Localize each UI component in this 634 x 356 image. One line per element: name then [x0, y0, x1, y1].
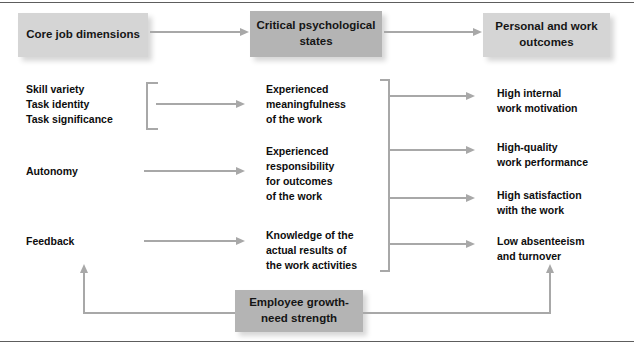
states-fan-spine: [388, 79, 390, 270]
outcome-high-internal-work-motivation-label: High internal work motivation: [497, 86, 627, 116]
header-arrow-core-to-states-line: [150, 31, 242, 33]
core-dimension-group-bracket: [146, 82, 158, 130]
core-dimension-group-label: Skill variety Task identity Task signifi…: [26, 82, 156, 127]
core-dimension-autonomy-label: Autonomy: [26, 164, 78, 179]
arrow-feedback-to-knowledge-line: [144, 240, 238, 242]
frame-bottom-rule: [0, 341, 634, 342]
arrow-group-to-meaningfulness-head: [236, 100, 245, 108]
header-arrow-states-to-outcomes-head: [473, 28, 482, 36]
arrow-fan-to-satisfaction-head: [466, 194, 475, 202]
arrow-fan-to-performance-head: [466, 146, 475, 154]
arrow-fan-to-motivation-head: [466, 92, 475, 100]
core-dimension-feedback-label: Feedback: [26, 234, 74, 249]
header-arrow-core-to-states-head: [240, 28, 249, 36]
moderator-left-branch-vertical: [83, 272, 85, 313]
header-box-personal-and-work-outcomes: Personal and work outcomes: [483, 13, 610, 57]
outcome-high-quality-work-performance-label: High-quality work performance: [497, 140, 627, 170]
arrow-fan-to-absenteeism-line: [390, 243, 468, 245]
header-label-core-job-dimensions: Core job dimensions: [26, 27, 140, 43]
moderator-label-employee-growth-need-strength: Employee growth- need strength: [235, 295, 363, 326]
frame-top-rule: [0, 2, 634, 3]
arrow-fan-to-absenteeism-head: [466, 240, 475, 248]
moderator-right-branch-horizontal: [363, 312, 551, 314]
header-box-critical-psychological-states: Critical psychological states: [250, 11, 382, 57]
arrow-group-to-meaningfulness-line: [156, 103, 238, 105]
moderator-box-employee-growth-need-strength: Employee growth- need strength: [235, 290, 363, 332]
outcome-high-satisfaction-with-the-work-label: High satisfaction with the work: [497, 188, 627, 218]
arrow-fan-to-performance-line: [390, 149, 468, 151]
header-label-critical-psychological-states: Critical psychological states: [250, 18, 382, 49]
moderator-left-branch-arrow-head: [80, 264, 88, 273]
arrow-feedback-to-knowledge-head: [236, 237, 245, 245]
job-characteristics-model-diagram: Core job dimensions Critical psychologic…: [0, 0, 634, 356]
moderator-right-branch-arrow-head: [546, 264, 554, 273]
moderator-left-branch-horizontal: [83, 312, 235, 314]
state-experienced-meaningfulness-label: Experienced meaningfulness of the work: [266, 82, 386, 127]
outcome-low-absenteeism-and-turnover-label: Low absenteeism and turnover: [497, 234, 627, 264]
header-arrow-states-to-outcomes-line: [384, 31, 474, 33]
state-experienced-responsibility-label: Experienced responsibility for outcomes …: [266, 144, 386, 204]
arrow-fan-to-satisfaction-line: [390, 197, 468, 199]
arrow-autonomy-to-responsibility-line: [144, 170, 238, 172]
header-label-personal-and-work-outcomes: Personal and work outcomes: [483, 19, 610, 50]
arrow-fan-to-motivation-line: [390, 95, 468, 97]
state-knowledge-of-results-label: Knowledge of the actual results of the w…: [266, 228, 394, 273]
arrow-autonomy-to-responsibility-head: [236, 167, 245, 175]
header-box-core-job-dimensions: Core job dimensions: [18, 13, 148, 57]
moderator-right-branch-vertical: [549, 272, 551, 313]
